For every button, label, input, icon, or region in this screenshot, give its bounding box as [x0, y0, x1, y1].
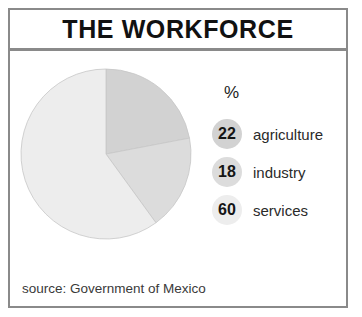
- title-bar: THE WORKFORCE: [10, 11, 346, 48]
- legend-value-badge-industry: 18: [212, 157, 242, 187]
- legend-item-industry[interactable]: 18 industry: [212, 153, 342, 191]
- legend-label-industry: industry: [253, 164, 306, 181]
- title-divider: [10, 48, 346, 51]
- legend-label-agriculture: agriculture: [253, 126, 323, 143]
- workforce-infographic: THE WORKFORCE % 22 agriculture 18 indust…: [0, 0, 362, 317]
- chart-legend: % 22 agriculture 18 industry 60 services: [212, 84, 342, 229]
- legend-value-badge-services: 60: [212, 195, 242, 225]
- page-title: THE WORKFORCE: [62, 15, 293, 44]
- pie-chart: [20, 68, 192, 240]
- legend-value-badge-agriculture: 22: [212, 119, 242, 149]
- legend-item-services[interactable]: 60 services: [212, 191, 342, 229]
- legend-unit-header: %: [224, 84, 342, 101]
- pie-chart-svg: [20, 68, 192, 240]
- legend-item-agriculture[interactable]: 22 agriculture: [212, 115, 342, 153]
- legend-label-services: services: [253, 202, 308, 219]
- source-note: source: Government of Mexico: [22, 281, 206, 296]
